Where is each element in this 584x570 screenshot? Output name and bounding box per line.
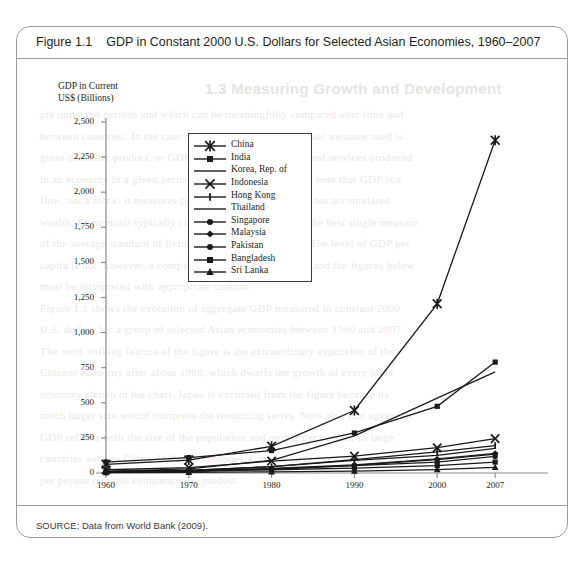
figure-caption: GDP in Constant 2000 U.S. Dollars for Se… [106, 35, 540, 49]
legend-marker-circle-icon [193, 214, 227, 226]
source-note: SOURCE: Data from World Bank (2009). [36, 520, 208, 531]
chart-legend: ChinaIndiaKorea, Rep. ofIndonesiaHong Ko… [188, 133, 312, 282]
legend-label: Malaysia [227, 227, 266, 237]
source-divider [17, 505, 567, 506]
legend-marker-line-icon [193, 201, 227, 213]
y-tick-label: 750 [52, 362, 94, 372]
legend-marker-plus-icon [193, 189, 227, 201]
y-axis-title-line1: GDP in Current [58, 81, 118, 91]
title-divider [17, 58, 567, 59]
y-axis-title: GDP in Current US$ (Billions) [58, 80, 118, 104]
y-tick-label: 2,250 [52, 151, 94, 161]
legend-item-malaysia: Malaysia [193, 226, 306, 239]
y-tick-label: 1,000 [52, 327, 94, 337]
legend-marker-triangle-icon [193, 264, 227, 276]
y-tick-label: 1,500 [52, 256, 94, 266]
legend-label: Korea, Rep. of [227, 164, 287, 174]
legend-label: Thailand [227, 202, 265, 212]
legend-label: Indonesia [227, 177, 268, 187]
legend-label: India [227, 152, 251, 162]
legend-label: Singapore [227, 215, 270, 225]
legend-marker-asterisk-icon [193, 138, 227, 150]
legend-item-china: China [193, 138, 306, 151]
legend-marker-diamond-icon [193, 226, 227, 238]
y-tick-label: 1,250 [52, 292, 94, 302]
legend-marker-square-icon [193, 252, 227, 264]
legend-item-korea-rep-of: Korea, Rep. of [193, 163, 306, 176]
marker-square [207, 156, 213, 162]
x-tick-label: 2000 [417, 480, 457, 490]
y-tick-label: 2,500 [52, 116, 94, 126]
marker-square [207, 257, 213, 263]
legend-item-thailand: Thailand [193, 201, 306, 214]
legend-label: China [227, 139, 254, 149]
marker-circle [207, 244, 213, 250]
y-tick-label: 250 [52, 432, 94, 442]
marker-diamond [206, 231, 213, 238]
x-tick-label: 1960 [86, 480, 126, 490]
legend-marker-line-icon [193, 163, 227, 175]
figure-title-row: Figure 1.1 GDP in Constant 2000 U.S. Dol… [16, 26, 568, 58]
legend-item-indonesia: Indonesia [193, 176, 306, 189]
legend-item-hong-kong: Hong Kong [193, 188, 306, 201]
legend-item-singapore: Singapore [193, 214, 306, 227]
legend-label: Hong Kong [227, 190, 276, 200]
marker-circle [207, 219, 213, 225]
y-tick-label: 500 [52, 397, 94, 407]
y-axis-title-line2: US$ (Billions) [58, 93, 114, 103]
y-tick-label: 1,750 [52, 221, 94, 231]
x-tick-label: 1970 [169, 480, 209, 490]
legend-item-pakistan: Pakistan [193, 239, 306, 252]
legend-label: Sri Lanka [227, 265, 268, 275]
legend-item-bangladesh: Bangladesh [193, 251, 306, 264]
figure-label: Figure 1.1 [36, 35, 92, 49]
y-tick-label: 2,000 [52, 186, 94, 196]
legend-marker-circle-icon [193, 239, 227, 251]
legend-label: Pakistan [227, 240, 263, 250]
x-tick-label: 1980 [252, 480, 292, 490]
legend-marker-square-icon [193, 151, 227, 163]
legend-item-india: India [193, 151, 306, 164]
x-tick-label: 2007 [475, 480, 515, 490]
x-tick-label: 1990 [334, 480, 374, 490]
legend-marker-x-icon [193, 176, 227, 188]
legend-label: Bangladesh [227, 253, 275, 263]
y-tick-label: 0 [52, 467, 94, 477]
legend-item-sri-lanka: Sri Lanka [193, 264, 306, 277]
